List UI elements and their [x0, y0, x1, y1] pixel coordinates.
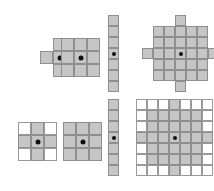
kernel-cell-empty [202, 121, 213, 132]
kernel-cell-empty [180, 99, 191, 110]
kernel-cell-filled [169, 154, 180, 165]
kernel-cell-filled [40, 51, 53, 64]
kernel-cell-filled [89, 122, 102, 135]
kernel-cell-empty [18, 148, 31, 161]
kernel-cell-empty [158, 165, 169, 176]
kernel-cell-filled [108, 70, 119, 81]
kernel-cell-empty [158, 99, 169, 110]
kernel-cell-filled [63, 148, 76, 161]
kernel-cell-filled [180, 132, 191, 143]
kernel-cell-filled [153, 70, 164, 81]
kernel-cell-filled [147, 110, 158, 121]
kernel-cell-filled [191, 132, 202, 143]
kernel-cell-filled [169, 99, 180, 110]
kernel-cell-empty [147, 165, 158, 176]
kernel-cell-filled [108, 48, 119, 59]
kernel-cell-empty [153, 81, 164, 92]
kernel-cell-filled [108, 143, 119, 154]
kernel-cell-filled [186, 26, 197, 37]
kernel-cell-filled [175, 26, 186, 37]
kernel-cell-filled [147, 121, 158, 132]
kernel-cell-empty [208, 15, 214, 26]
kernel-grid [61, 38, 100, 77]
kernel-cell-empty [44, 122, 57, 135]
kernel-cell-filled [175, 37, 186, 48]
kernel-grid [136, 99, 213, 176]
kernel-cell-filled [164, 37, 175, 48]
kernel-cell-empty [136, 110, 147, 121]
kernel-cell-filled [158, 143, 169, 154]
kernel-cell-empty [202, 154, 213, 165]
kernel-cell-filled [186, 70, 197, 81]
kernel-cell-filled [31, 122, 44, 135]
kernel-cell-filled [89, 148, 102, 161]
kernel-cell-empty [18, 122, 31, 135]
kernel-cell-filled [142, 48, 153, 59]
kernel-cell-filled [175, 15, 186, 26]
kernel-cell-filled [191, 121, 202, 132]
kernel-cell-filled [61, 38, 74, 51]
kernel-cell-filled [164, 26, 175, 37]
kernel-cell-filled [175, 70, 186, 81]
structuring-element-vertical-line-bounded [108, 99, 119, 176]
kernel-cell-empty [136, 99, 147, 110]
kernel-cell-filled [74, 38, 87, 51]
structuring-element-disk-unbounded [142, 15, 214, 92]
kernel-cell-empty [202, 165, 213, 176]
kernel-cell-filled [180, 121, 191, 132]
kernel-cell-filled [175, 59, 186, 70]
kernel-cell-filled [186, 48, 197, 59]
kernel-cell-empty [153, 15, 164, 26]
kernel-cell-filled [197, 48, 208, 59]
kernel-cell-filled [87, 51, 100, 64]
kernel-cell-filled [175, 48, 186, 59]
kernel-cell-filled [180, 110, 191, 121]
kernel-cell-filled [108, 59, 119, 70]
kernel-cell-empty [180, 165, 191, 176]
kernel-cell-filled [197, 37, 208, 48]
kernel-cell-empty [40, 38, 53, 51]
kernel-cell-filled [153, 48, 164, 59]
kernel-cell-filled [136, 132, 147, 143]
kernel-cell-empty [191, 99, 202, 110]
kernel-cell-filled [169, 143, 180, 154]
kernel-cell-empty [197, 15, 208, 26]
kernel-cell-filled [186, 37, 197, 48]
kernel-cell-empty [147, 99, 158, 110]
kernel-cell-empty [208, 81, 214, 92]
kernel-cell-filled [169, 121, 180, 132]
kernel-cell-empty [142, 81, 153, 92]
kernel-cell-filled [158, 110, 169, 121]
kernel-cell-empty [208, 26, 214, 37]
kernel-cell-filled [108, 121, 119, 132]
kernel-cell-empty [142, 37, 153, 48]
kernel-cell-empty [142, 26, 153, 37]
kernel-cell-filled [108, 132, 119, 143]
figure-canvas [0, 0, 214, 191]
kernel-cell-filled [108, 15, 119, 26]
kernel-cell-empty [208, 37, 214, 48]
structuring-element-square-unbounded [61, 38, 100, 77]
kernel-cell-filled [191, 143, 202, 154]
kernel-cell-filled [76, 135, 89, 148]
kernel-cell-empty [202, 143, 213, 154]
kernel-cell-filled [87, 38, 100, 51]
kernel-cell-empty [164, 81, 175, 92]
kernel-cell-empty [136, 143, 147, 154]
kernel-cell-filled [147, 132, 158, 143]
structuring-element-vertical-line-unbounded [108, 15, 119, 92]
kernel-cell-filled [164, 48, 175, 59]
kernel-cell-filled [208, 48, 214, 59]
kernel-cell-filled [191, 110, 202, 121]
kernel-cell-filled [147, 154, 158, 165]
kernel-grid [63, 122, 102, 161]
kernel-cell-filled [44, 135, 57, 148]
kernel-cell-filled [89, 135, 102, 148]
kernel-grid [142, 15, 214, 92]
kernel-cell-filled [180, 143, 191, 154]
kernel-cell-filled [202, 132, 213, 143]
kernel-cell-filled [197, 70, 208, 81]
kernel-cell-filled [164, 59, 175, 70]
kernel-cell-filled [158, 132, 169, 143]
kernel-cell-filled [169, 165, 180, 176]
